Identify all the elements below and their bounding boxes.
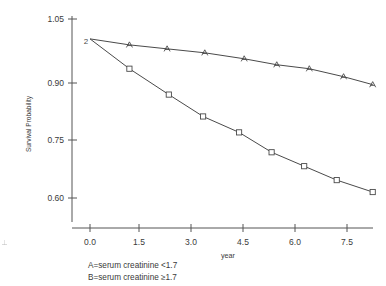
marker-b [370,189,375,194]
x-tick-label-00: 0.0 [84,237,96,247]
marker-b [236,130,241,135]
marker-b [302,164,307,169]
chart-canvas: 1.05 0.90 0.75 0.60 Survival Probability… [0,0,386,286]
series-line-a [90,39,373,85]
x-tick-label-60: 6.0 [289,237,301,247]
y-tick-label-090: 0.90 [47,78,64,88]
edge-artifact-group [2,240,7,245]
series-a [90,39,376,87]
x-axis-title: year [221,251,236,260]
marker-b [334,178,339,183]
y-axis-group: 1.05 0.90 0.75 0.60 Survival Probability [25,14,77,222]
origin-marker-label: 2 [84,37,89,46]
x-tick-label-15: 1.5 [133,237,145,247]
x-axis-group: 0.0 1.5 3.0 4.5 6.0 7.5 year [72,224,373,260]
x-tick-label-75: 7.5 [341,237,353,247]
y-tick-label-060: 0.60 [47,193,64,203]
data-series-layer [90,39,376,195]
marker-b [166,92,171,97]
series-line-b [90,39,373,192]
x-tick-label-30: 3.0 [185,237,197,247]
y-tick-label-075: 0.75 [47,135,64,145]
marker-b [127,66,132,71]
marker-b [269,150,274,155]
y-axis-title: Survival Probability [25,95,33,152]
x-tick-label-45: 4.5 [237,237,249,247]
series-b [90,39,375,195]
y-tick-label-105: 1.05 [47,14,64,24]
marker-b [200,114,205,119]
survival-curve-figure: 1.05 0.90 0.75 0.60 Survival Probability… [0,0,386,286]
